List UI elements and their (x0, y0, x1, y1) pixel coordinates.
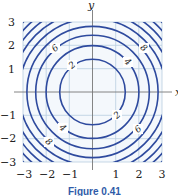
svg-text:−1: −1 (62, 168, 78, 181)
x-tick-labels: −3 −2 −1 1 2 3 (16, 168, 166, 181)
svg-text:3: 3 (8, 16, 15, 29)
svg-text:−1: −1 (0, 109, 16, 122)
svg-text:−3: −3 (0, 156, 16, 169)
svg-text:2: 2 (8, 39, 15, 52)
svg-text:−3: −3 (16, 168, 32, 181)
y-axis-label: y (87, 0, 95, 12)
figure-caption: Figure 0.41 (68, 186, 121, 196)
x-axis-label: x (175, 86, 178, 99)
contour-plot: 2 2 4 4 6 6 8 8 −3 −2 −1 1 2 3 3 2 1 −1 … (0, 0, 178, 196)
svg-text:1: 1 (113, 168, 120, 181)
svg-text:3: 3 (159, 168, 166, 181)
svg-text:2: 2 (136, 168, 143, 181)
y-tick-labels: 3 2 1 −1 −2 −3 (0, 16, 16, 169)
svg-text:−2: −2 (0, 132, 16, 145)
svg-text:−2: −2 (39, 168, 55, 181)
svg-text:1: 1 (8, 63, 15, 76)
